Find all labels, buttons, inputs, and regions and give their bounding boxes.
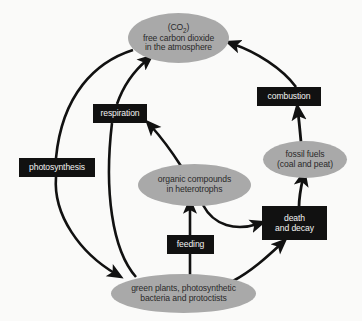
combustion-label: combustion (268, 92, 311, 102)
node-organic-compounds: organic compounds in heterotrophs (138, 164, 251, 206)
node-fossil-fuels: fossil fuels (coal and peat) (263, 141, 347, 178)
node-free-carbon-dioxide: (CO2) free carbon dioxide in the atmosph… (128, 13, 229, 63)
arrow-combustion-to-co2 (233, 44, 296, 87)
death-and-decay-label-line-2: and decay (275, 223, 314, 233)
arrow-green-plants-to-respiration (109, 123, 136, 277)
node-combustion: combustion (257, 87, 321, 106)
node-photosynthesis: photosynthesis (19, 158, 95, 177)
arrow-fossil-fuels-to-combustion (298, 112, 301, 142)
co2-label-line-3: in the atmosphere (143, 43, 214, 53)
death-and-decay-label-line-1: death (275, 213, 314, 223)
arrow-green-plants-to-death-and-decay (233, 244, 281, 281)
node-death-and-decay: death and decay (262, 206, 327, 240)
arrow-organic-compounds-to-respiration (151, 126, 181, 166)
feeding-label: feeding (177, 240, 205, 250)
green-plants-label-line-2: bacteria and protoctists (131, 294, 236, 304)
arrow-respiration-to-co2 (117, 60, 147, 104)
carbon-cycle-diagram: (CO2) free carbon dioxide in the atmosph… (0, 0, 362, 321)
arrow-photosynthesis-to-green-plants (56, 177, 116, 274)
arrow-organic-compounds-to-death-and-decay (203, 205, 258, 227)
respiration-label: respiration (100, 109, 139, 119)
organic-compounds-label-line-2: in heterotrophs (158, 185, 231, 195)
photosynthesis-label: photosynthesis (29, 163, 85, 173)
node-respiration: respiration (93, 104, 147, 123)
fossil-fuels-label-line-2: (coal and peat) (277, 160, 333, 170)
node-feeding: feeding (167, 235, 214, 254)
arrow-death-and-decay-to-fossil-fuels (299, 178, 303, 207)
node-green-plants: green plants, photosynthetic bacteria an… (111, 274, 256, 313)
